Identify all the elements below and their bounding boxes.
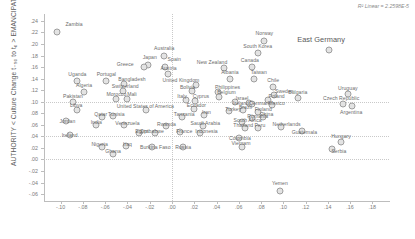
data-point-label: Australia [154, 45, 174, 51]
y-tick-label: .02 [0, 145, 38, 151]
data-point-label: Netherlands [273, 121, 301, 127]
data-point-label: Indonesia [195, 128, 218, 134]
x-tick-mark [127, 201, 128, 204]
x-tick-label: .04 [213, 204, 220, 210]
data-point-label: Canada [241, 57, 259, 63]
data-point-label: Rwanda [157, 121, 176, 127]
data-point-label: Chile [267, 77, 279, 83]
data-point[interactable] [294, 95, 301, 102]
y-tick-label: .06 [0, 122, 38, 128]
y-tick-label: .24 [0, 18, 38, 24]
data-point-label: Taiwan [251, 69, 267, 75]
data-point-label: Japan [143, 54, 157, 60]
x-tick-label: .14 [324, 204, 331, 210]
data-point-label: Tunisia [108, 111, 125, 117]
data-point-label: Belgium [217, 89, 236, 95]
y-tick-label: -.02 [0, 168, 38, 174]
data-point-label: Venezuela [115, 120, 139, 126]
x-tick-mark [306, 201, 307, 204]
data-point-label: Yemen [272, 180, 288, 186]
x-tick-label: -.04 [123, 204, 132, 210]
x-tick-label: -.10 [56, 204, 65, 210]
data-point-label: United States of America [117, 103, 174, 109]
data-point-label: India [91, 119, 102, 125]
y-tick-label: .04 [0, 133, 38, 139]
x-tick-mark [83, 201, 84, 204]
x-tick-label: -.08 [78, 204, 87, 210]
data-point-label: Guatemala [292, 129, 317, 135]
data-point-label: Greece [117, 61, 134, 67]
data-point-label: Bulgaria [288, 89, 307, 95]
data-point[interactable] [276, 187, 283, 194]
x-tick-mark [150, 201, 151, 204]
x-tick-mark [261, 201, 262, 204]
data-point-label: Morocco [106, 91, 126, 97]
data-point-label: Cyprus [193, 93, 209, 99]
data-point[interactable] [103, 77, 110, 84]
data-point-label: Albania [221, 69, 238, 75]
scatter-chart: R² Linear = 2.2598E-5 AUTHORITY < Cultur… [0, 0, 415, 239]
data-point-label: Bangladesh [118, 76, 145, 82]
data-point-label: New Zealand [197, 59, 228, 65]
data-point[interactable] [141, 64, 148, 71]
data-point-label: Uganda [68, 71, 86, 77]
x-tick-label: .02 [191, 204, 198, 210]
r-squared-annotation: R² Linear = 2.2598E-5 [358, 3, 409, 9]
data-point-label: East Germany [297, 35, 345, 44]
data-point[interactable] [54, 28, 61, 35]
data-point-label: Libya [70, 102, 82, 108]
data-point-label: South Korea [243, 43, 272, 49]
data-point[interactable] [226, 75, 233, 82]
x-tick-label: .16 [346, 204, 353, 210]
y-tick-label: .22 [0, 29, 38, 35]
x-tick-mark [172, 201, 173, 204]
gridline-horizontal [44, 159, 389, 160]
data-point-label: Bolivia [180, 84, 195, 90]
data-point[interactable] [344, 91, 351, 98]
data-point[interactable] [251, 76, 258, 83]
x-tick-mark [61, 201, 62, 204]
data-point-label: Pakistan [63, 93, 83, 99]
data-point[interactable] [325, 46, 332, 53]
x-tick-label: .06 [235, 204, 242, 210]
y-tick-label: .00 [0, 156, 38, 162]
x-tick-label: .08 [257, 204, 264, 210]
x-tick-label: .10 [280, 204, 287, 210]
y-tick-label: .20 [0, 41, 38, 47]
y-tick-label: .08 [0, 110, 38, 116]
data-point-label: Italy [177, 93, 187, 99]
data-point-label: Tanzania [174, 111, 195, 117]
x-tick-mark [328, 201, 329, 204]
y-tick-label: .16 [0, 64, 38, 70]
data-point[interactable] [340, 101, 347, 108]
data-point-label: Burkina Faso [140, 144, 171, 150]
data-point-label: Poland [269, 93, 285, 99]
data-point-label: Ghana [105, 148, 121, 154]
data-point-label: Zambia [65, 21, 82, 27]
data-point-label: Switzerland [112, 83, 139, 89]
data-point-label: Algeria [76, 82, 92, 88]
x-tick-mark [372, 201, 373, 204]
data-point-label: Saudi Arabia [191, 120, 221, 126]
y-tick-label: .18 [0, 53, 38, 59]
x-tick-label: .18 [369, 204, 376, 210]
x-tick-label: .00 [168, 204, 175, 210]
data-point-label: Austria [161, 65, 177, 71]
y-tick-label: -.04 [0, 180, 38, 186]
data-point-label: Norway [256, 30, 274, 36]
data-point-label: Portugal [97, 71, 116, 77]
data-point-label: Denmark [249, 100, 270, 106]
data-point[interactable] [254, 50, 261, 57]
x-tick-mark [217, 201, 218, 204]
x-tick-label: -.02 [145, 204, 154, 210]
data-point-label: Turkey [225, 106, 241, 112]
data-point-label: Zimbabwe [140, 128, 164, 134]
data-point-label: Jordan [59, 118, 75, 124]
data-point-label: Czech Republic [323, 95, 359, 101]
x-tick-label: -.06 [101, 204, 110, 210]
data-point-label: Mexico [268, 100, 284, 106]
y-tick-label: .14 [0, 76, 38, 82]
data-point-label: Serbia [331, 148, 346, 154]
data-point-label: France [176, 128, 192, 134]
data-point-label: Iran [202, 109, 211, 115]
